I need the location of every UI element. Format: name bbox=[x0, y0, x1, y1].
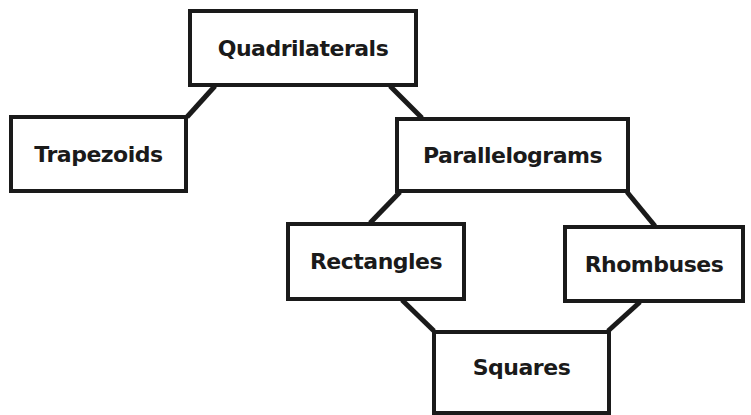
node-label: Rectangles bbox=[310, 249, 442, 274]
edge-quadrilaterals-trapezoids bbox=[187, 86, 215, 117]
node-label: Squares bbox=[473, 355, 570, 380]
node-label: Rhombuses bbox=[585, 252, 724, 277]
edge-parallelograms-rectangles bbox=[370, 192, 400, 223]
edge-rectangles-squares bbox=[402, 300, 434, 331]
node-parallelograms: Parallelograms bbox=[395, 117, 630, 193]
edge-rhombuses-squares bbox=[608, 302, 640, 331]
node-rectangles: Rectangles bbox=[286, 222, 466, 301]
node-label: Parallelograms bbox=[423, 143, 602, 168]
node-label: Trapezoids bbox=[34, 142, 162, 167]
edge-parallelograms-rhombuses bbox=[627, 192, 655, 226]
node-squares: Squares bbox=[432, 330, 611, 415]
node-trapezoids: Trapezoids bbox=[9, 115, 188, 193]
node-label: Quadrilaterals bbox=[218, 36, 389, 61]
node-rhombuses: Rhombuses bbox=[563, 225, 745, 303]
edge-quadrilaterals-parallelograms bbox=[390, 86, 422, 118]
node-quadrilaterals: Quadrilaterals bbox=[188, 9, 418, 87]
